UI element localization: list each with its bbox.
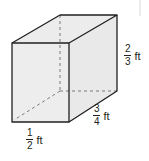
width-unit: ft [37, 134, 43, 146]
height-numerator: 2 [124, 44, 132, 54]
height-label: 2 3 ft [124, 44, 141, 67]
depth-label: 3 4 ft [93, 104, 110, 127]
width-denominator: 2 [26, 141, 34, 151]
rectangular-prism-drawing [0, 0, 149, 161]
depth-denominator: 4 [93, 117, 101, 127]
height-unit: ft [135, 50, 141, 62]
depth-numerator: 3 [93, 104, 101, 114]
height-denominator: 3 [124, 57, 132, 67]
height-fraction: 2 3 [124, 44, 132, 67]
width-numerator: 1 [26, 128, 34, 138]
depth-unit: ft [104, 110, 110, 122]
width-label: 1 2 ft [26, 128, 43, 151]
depth-fraction: 3 4 [93, 104, 101, 127]
width-fraction: 1 2 [26, 128, 34, 151]
